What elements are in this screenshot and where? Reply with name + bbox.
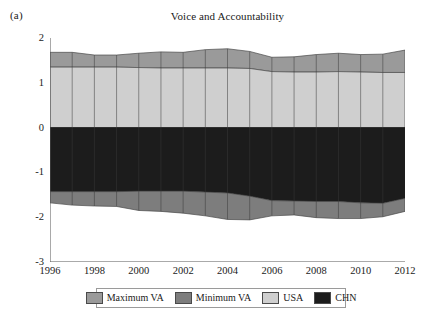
- legend-label: USA: [283, 293, 303, 303]
- legend-item: USA: [262, 292, 303, 304]
- legend-swatch-icon: [86, 292, 103, 304]
- figure-panel: (a) Voice and Accountability 210-1-2-3 1…: [0, 0, 432, 324]
- x-tick-label: 1998: [84, 266, 105, 277]
- x-tick-label: 2002: [173, 266, 194, 277]
- y-tick-label: 2: [18, 33, 44, 44]
- x-tick-label: 1996: [40, 266, 61, 277]
- x-tick-label: 2008: [306, 266, 327, 277]
- chart-legend: Maximum VAMinimum VAUSACHN: [96, 288, 346, 308]
- x-axis-labels: 199619982000200220042006200820102012: [50, 266, 410, 282]
- x-tick-label: 2010: [350, 266, 371, 277]
- legend-label: Minimum VA: [196, 293, 251, 303]
- y-tick-label: 0: [18, 122, 44, 133]
- x-tick-label: 2006: [261, 266, 282, 277]
- legend-swatch-icon: [175, 292, 192, 304]
- x-tick-label: 2004: [217, 266, 238, 277]
- legend-item: Maximum VA: [86, 292, 164, 304]
- legend-swatch-icon: [262, 292, 279, 304]
- y-axis-labels: 210-1-2-3: [14, 38, 44, 262]
- y-tick-label: -1: [18, 167, 44, 178]
- plot-area: [50, 38, 405, 262]
- area-chart-svg: [50, 38, 405, 262]
- y-tick-label: 1: [18, 78, 44, 89]
- y-tick-label: -2: [18, 212, 44, 223]
- legend-swatch-icon: [314, 292, 331, 304]
- panel-label: (a): [10, 9, 23, 21]
- legend-item: Minimum VA: [175, 292, 251, 304]
- x-tick-label: 2000: [128, 266, 149, 277]
- legend-item: CHN: [314, 292, 356, 304]
- chart-title: Voice and Accountability: [50, 10, 405, 22]
- legend-label: Maximum VA: [107, 293, 164, 303]
- legend-label: CHN: [335, 293, 356, 303]
- x-tick-label: 2012: [395, 266, 416, 277]
